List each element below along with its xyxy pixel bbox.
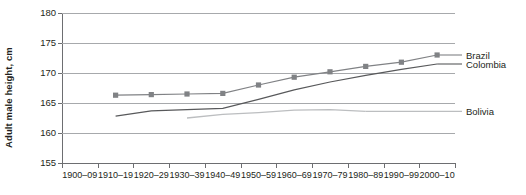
x-tick-mark	[419, 164, 420, 168]
plot-area	[62, 13, 455, 163]
y-tick-label: 180	[26, 8, 56, 18]
y-tick-label: 165	[26, 98, 56, 108]
y-tick-label: 175	[26, 38, 56, 48]
x-tick-mark	[241, 164, 242, 168]
y-tick-mark	[58, 73, 62, 74]
x-tick-mark	[312, 164, 313, 168]
x-tick-mark	[205, 164, 206, 168]
y-tick-label: 160	[26, 128, 56, 138]
x-tick-label: 1950–59	[241, 170, 277, 181]
y-tick-label-wrap: 175	[20, 38, 56, 48]
x-tick-mark	[98, 164, 99, 168]
y-tick-label-wrap: 170	[20, 68, 56, 78]
x-tick-label: 1990–99	[384, 170, 420, 181]
x-tick-label: 1960–69	[276, 170, 312, 181]
gridline	[62, 73, 455, 74]
gridline	[62, 103, 455, 104]
y-tick-label-wrap: 165	[20, 98, 56, 108]
gridline	[62, 13, 455, 14]
x-tick-mark	[384, 164, 385, 168]
x-tick-label: 2000–10	[419, 170, 455, 181]
y-tick-label: 170	[26, 68, 56, 78]
series-label-bolivia: Bolivia	[466, 106, 494, 117]
x-tick-mark	[455, 164, 456, 168]
y-tick-label: 155	[26, 158, 56, 168]
x-tick-mark	[348, 164, 349, 168]
x-tick-label: 1910–19	[98, 170, 134, 181]
x-tick-label: 1940–49	[205, 170, 241, 181]
y-tick-mark	[58, 43, 62, 44]
x-tick-mark	[133, 164, 134, 168]
y-tick-label-wrap: 160	[20, 128, 56, 138]
chart-figure: Adult male height, cm 155160165170175180…	[0, 0, 526, 195]
x-tick-label: 1900–09	[62, 170, 98, 181]
x-tick-label: 1920–29	[133, 170, 169, 181]
series-label-colombia: Colombia	[466, 59, 506, 70]
x-tick-mark	[62, 164, 63, 168]
y-tick-mark	[58, 133, 62, 134]
y-tick-mark	[58, 103, 62, 104]
x-tick-mark	[169, 164, 170, 168]
x-tick-label: 1970–79	[312, 170, 348, 181]
y-tick-label-wrap: 180	[20, 8, 56, 18]
y-tick-mark	[58, 13, 62, 14]
gridline	[62, 43, 455, 44]
x-tick-mark	[276, 164, 277, 168]
x-axis-line	[62, 163, 456, 164]
gridline	[62, 133, 455, 134]
x-tick-label: 1930–39	[169, 170, 205, 181]
x-tick-label: 1980–89	[348, 170, 384, 181]
y-axis-title: Adult male height, cm	[0, 0, 16, 195]
y-tick-label-wrap: 155	[20, 158, 56, 168]
